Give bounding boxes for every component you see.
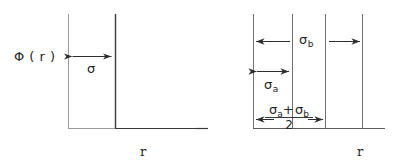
sigma-b-subscript: b <box>308 39 314 49</box>
sigma-b-label: σb <box>299 33 313 46</box>
sigma-a-subscript: a <box>273 84 279 94</box>
right-x-axis-label: r <box>357 145 363 158</box>
mean-sigma-fraction: σa+ σb 2 <box>265 103 313 131</box>
diagram-canvas <box>0 0 397 164</box>
fraction-operator: + <box>283 102 294 117</box>
sigma-a-symbol: σ <box>264 77 272 92</box>
fraction-sigma-a-subscript: a <box>277 109 283 119</box>
left-x-axis-label: r <box>140 145 146 158</box>
fraction-sigma-b-subscript: b <box>303 109 309 119</box>
left-y-axis-label: Φ ( r ) <box>14 50 56 63</box>
sigma-label: σ <box>87 62 95 75</box>
sigma-b-symbol: σ <box>299 32 307 47</box>
fraction-numerator: σa+ σb <box>265 103 313 117</box>
fraction-denominator: 2 <box>265 119 313 132</box>
sigma-a-label: σa <box>264 78 278 91</box>
potential-energy-diagram: Φ ( r ) σ r σb σa σa+ σb 2 r <box>0 0 397 164</box>
fraction-sigma-b-symbol: σ <box>295 102 303 117</box>
